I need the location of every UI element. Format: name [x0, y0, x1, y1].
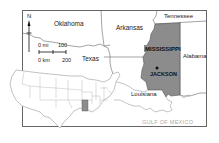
inset-mississippi-highlight: [82, 100, 88, 111]
label-mississippi: MISSISSIPPI: [145, 46, 181, 52]
scale-km-end: 200: [62, 57, 71, 63]
label-gulf-of-mexico: GULF OF MEXICO: [142, 119, 194, 125]
scale-km-start: 0 km: [38, 57, 50, 63]
scale-mi-start: 0 mi: [38, 42, 48, 48]
north-arrow-label: N: [27, 13, 31, 19]
label-arkansas: Arkansas: [116, 24, 144, 31]
label-louisiana: Louisiana: [131, 91, 157, 97]
mississippi-locator-map: Oklahoma Arkansas Tennessee Texas Alabam…: [0, 0, 219, 143]
label-texas: Texas: [82, 55, 100, 62]
jackson-capital-dot: [156, 67, 159, 70]
label-alabama: Alabama: [183, 53, 207, 59]
label-jackson: JACKSON: [150, 71, 177, 77]
label-oklahoma: Oklahoma: [54, 20, 84, 27]
scale-mi-end: 100: [58, 42, 67, 48]
label-tennessee: Tennessee: [164, 13, 194, 19]
